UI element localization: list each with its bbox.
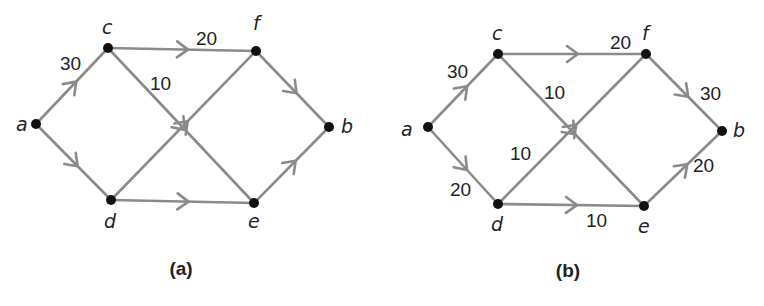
node-d: d [491,199,504,235]
network-flow-figure: 302010acfbde(a) 3020201010103020acfbde(b… [0,0,764,306]
node-a: a [401,118,433,140]
node-dot [249,198,259,208]
edge-weight-label: 10 [586,210,607,231]
node-b: b [324,115,353,137]
node-e: e [248,198,260,232]
node-label: c [102,16,113,38]
edge-weight-label: 20 [450,179,471,200]
edge-d-e [111,193,254,209]
node-label: d [491,213,504,235]
edge-weight-label: 10 [150,73,171,94]
edge-e-b: 20 [644,131,722,206]
node-a: a [16,113,41,135]
node-dot [639,201,649,211]
node-label: e [248,210,260,232]
node-f: f [251,12,263,56]
node-label: b [341,115,353,137]
edge-weight-label: 20 [693,155,714,176]
node-e: e [638,201,650,237]
edge-weight-label: 30 [447,61,468,82]
panel-caption: (b) [556,260,580,281]
panel-caption: (a) [169,258,192,279]
node-dot [324,122,334,132]
edge-weight-label: 10 [544,82,565,103]
node-label: d [104,210,117,232]
edge-f-b [256,51,329,127]
edge-f-b: 30 [646,54,722,131]
edge-a-c: 30 [428,54,498,127]
edge-a-d [36,124,111,200]
node-label: b [733,119,745,141]
node-dot [493,49,503,59]
node-dot [493,199,503,209]
node-b: b [717,119,745,141]
node-label: a [401,118,413,140]
node-label: f [253,12,263,34]
panel-a-graph: 302010acfbde(a) [16,12,353,279]
edge-weight-label: 30 [60,53,81,74]
edge-c-f: 20 [108,28,256,57]
edge-e-b [254,127,329,203]
node-label: c [492,22,503,44]
node-label: e [638,215,650,237]
node-d: d [104,195,117,232]
node-dot [103,43,113,53]
edge-weight-label: 30 [700,83,721,104]
edge-d-e: 10 [498,197,644,231]
node-c: c [492,22,503,59]
node-dot [251,46,261,56]
node-label: a [16,113,28,135]
panel-b-graph: 3020201010103020acfbde(b) [401,22,745,281]
edge-c-f: 20 [498,32,646,62]
edge-weight-label: 20 [610,32,631,53]
edge-a-d: 20 [428,127,498,204]
node-label: f [642,22,652,44]
node-dot [423,122,433,132]
node-dot [641,49,651,59]
edge-weight-label: 20 [196,28,217,49]
edge-weight-label: 10 [510,143,531,164]
node-f: f [641,22,652,59]
node-dot [31,119,41,129]
node-dot [106,195,116,205]
edge-a-c: 30 [36,48,108,124]
node-dot [717,126,727,136]
node-c: c [102,16,113,53]
